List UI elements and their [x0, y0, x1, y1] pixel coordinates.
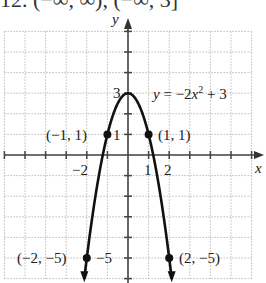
equation-label: y = −2x2 + 3 [151, 84, 227, 102]
curve-arrow-icon [168, 271, 176, 282]
data-point [165, 254, 173, 262]
data-point [145, 130, 153, 138]
point-label-1-1: (1, 1) [158, 127, 191, 144]
x-axis-label: x [254, 160, 262, 176]
curve-arrow-icon [80, 271, 88, 282]
y-tick-label-3: 3 [113, 85, 121, 101]
y-axis-label: y [110, 11, 119, 27]
y-tick-label-1: 1 [113, 127, 121, 143]
axes [4, 18, 264, 283]
y-axis-arrow-icon [124, 18, 132, 29]
x-tick-label-1: 1 [144, 162, 152, 178]
x-tick-label-neg2: −2 [72, 162, 88, 178]
y-tick-label-neg5: −5 [96, 250, 112, 266]
parabola-graph: y x y = −2x2 + 3 3 1 −5 −2 1 2 (−1, 1) (… [0, 0, 266, 283]
x-tick-label-2: 2 [164, 162, 172, 178]
x-axis-arrow-icon [254, 151, 264, 159]
point-label-neg1-1: (−1, 1) [46, 127, 87, 144]
point-label-neg2-neg5: (−2, −5) [17, 250, 66, 267]
point-label-2-neg5: (2, −5) [179, 250, 220, 267]
data-point [103, 130, 111, 138]
data-point [83, 254, 91, 262]
